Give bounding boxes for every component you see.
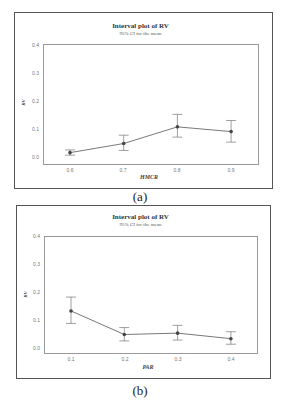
mean-line: [71, 311, 231, 339]
figure-b: Interval plot of RV 95% CI for the mean …: [0, 0, 281, 405]
mean-marker: [229, 337, 233, 341]
mean-marker: [69, 309, 73, 313]
interval-series-b: [0, 0, 281, 405]
mean-marker: [176, 331, 180, 335]
mean-marker: [123, 333, 127, 337]
caption-b: (b): [120, 383, 160, 399]
